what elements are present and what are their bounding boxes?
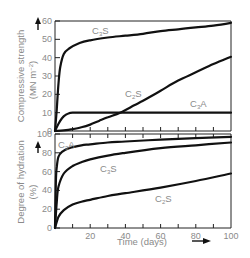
bottom-y-arrow-icon: [35, 141, 41, 153]
y-tick-label: 0: [47, 223, 52, 233]
curve-c3s: [55, 143, 231, 229]
top-x-ticks: [73, 127, 214, 131]
x-tick-label: 80: [191, 231, 201, 241]
top-curves: [55, 23, 231, 131]
y-tick-label: 30: [42, 71, 52, 81]
top-c2s-label: C2S: [125, 88, 142, 100]
top-y-ticks: 0102030405060: [42, 16, 60, 136]
hydration-strength-chart: 0102030405060 C3S C2S C3A Compressive st…: [0, 0, 250, 258]
top-c3a-label: C3A: [190, 98, 207, 110]
svg-text:Compressive strength: Compressive strength: [15, 30, 26, 122]
y-tick-label: 100: [37, 129, 52, 139]
top-c3s-label: C3S: [92, 25, 109, 37]
svg-text:Degree of hydration: Degree of hydration: [15, 140, 26, 223]
x-tick-label: 20: [85, 231, 95, 241]
y-tick-label: 10: [42, 108, 52, 118]
bottom-panel: 020406080100 20406080100 C3A C3S C2S Deg…: [15, 129, 239, 247]
curve-c2s: [55, 174, 231, 229]
bottom-c2s-label: C2S: [155, 193, 172, 205]
bottom-y-label: Degree of hydration (%): [15, 140, 38, 223]
x-axis-label: Time (days): [117, 236, 167, 247]
bottom-curves: [55, 137, 231, 228]
curve-c2s: [55, 57, 231, 131]
bottom-c3a-label: C3A: [58, 139, 75, 151]
y-tick-label: 20: [42, 89, 52, 99]
top-y-arrow-icon: [35, 17, 41, 30]
y-tick-label: 60: [42, 167, 52, 177]
y-tick-label: 40: [42, 185, 52, 195]
y-tick-label: 20: [42, 204, 52, 214]
y-tick-label: 80: [42, 148, 52, 158]
bottom-c3s-label: C3S: [100, 163, 117, 175]
curve-c3s: [55, 23, 231, 131]
y-tick-label: 50: [42, 34, 52, 44]
top-y-label: Compressive strength (MN m−2): [15, 30, 38, 122]
y-tick-label: 60: [42, 16, 52, 26]
y-tick-label: 40: [42, 53, 52, 63]
x-tick-label: 100: [223, 231, 238, 241]
svg-text:(MN m−2): (MN m−2): [27, 61, 38, 100]
top-panel: 0102030405060 C3S C2S C3A Compressive st…: [15, 16, 231, 136]
svg-text:(%): (%): [27, 185, 38, 200]
